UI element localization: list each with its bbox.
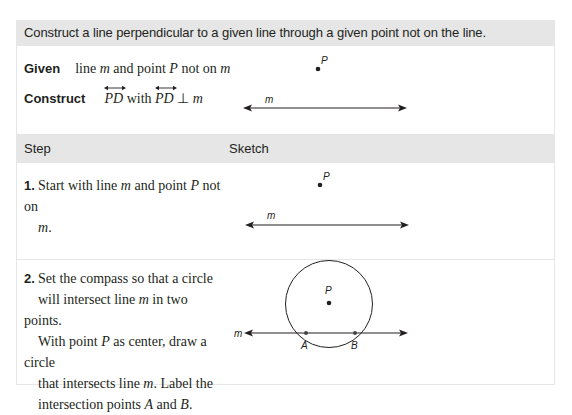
given-text: line m and point P not on m [75,61,230,76]
point-p [316,67,321,72]
point-p-label: P [321,55,328,66]
point-b [353,331,357,335]
step-2-text: 2.Set the compass so that a circle will … [24,268,224,415]
point-b-label: B [351,340,358,351]
line-m-label: m [265,94,273,105]
point-a [304,331,308,335]
construction-title: Construct a line perpendicular to a give… [24,25,486,40]
step-1-sketch: P m [227,163,427,260]
point-p-label: P [325,285,332,296]
point-a-label: A [300,340,308,351]
point-p [327,301,332,306]
construct-statement: Construct PD with PD ⊥ m [24,88,203,107]
table-header-row: Step Sketch [17,134,554,163]
line-m-label: m [267,210,275,221]
construction-table: Construct a line perpendicular to a give… [16,20,555,385]
line-m-label: m [234,328,242,339]
title-bar: Construct a line perpendicular to a give… [17,21,554,46]
given-statement: Given line m and point P not on m [24,58,230,77]
construct-text: PD with PD ⊥ m [104,91,202,106]
step-row-1: 1.Start with line m and point P not on m… [17,163,554,260]
double-arrow-overline-icon [155,85,177,91]
given-sketch: P m [227,46,427,134]
point-p [318,183,323,188]
step-row-2: 2.Set the compass so that a circle will … [17,260,554,384]
line-pd-notation: PD [104,91,123,107]
step-1-text: 1.Start with line m and point P not on m… [24,175,224,238]
given-construct-section: Given line m and point P not on m Constr… [17,46,554,134]
construct-label: Construct [24,91,85,106]
step-2-sketch: P m A B [217,260,437,384]
header-sketch: Sketch [229,141,269,156]
line-pd-notation: PD [155,91,174,107]
point-p-label: P [323,171,330,182]
header-step: Step [24,141,51,156]
double-arrow-overline-icon [104,85,126,91]
given-label: Given [24,61,60,76]
